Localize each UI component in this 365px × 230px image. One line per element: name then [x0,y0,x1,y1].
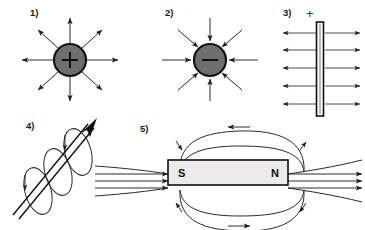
panel-3-label: 3) [283,7,291,18]
figure-canvas: 1) 2) [0,0,365,230]
panel-5-left-field-lines [95,166,168,196]
panel-4-loop-direction-arrows [25,135,65,190]
panel-5-lower-loop [176,190,306,230]
panel-3-plate-charge-sign: + [306,6,314,21]
panel-5-north-pole-label: N [271,167,279,179]
panel-5-right-field-lines [288,160,362,202]
panel-1-positive-charge: 1) [22,7,118,101]
panel-3-field-lines-right [325,33,360,104]
panel-3-field-lines-left [283,33,316,104]
panel-4-label: 4) [26,120,34,131]
panel-5-label: 5) [140,123,148,134]
panel-2-label: 2) [165,7,173,18]
panel-5-magnet-body [168,160,288,185]
panel-5-south-pole-label: S [178,167,185,179]
panel-3-charged-plate: 3) + [283,6,360,116]
panel-1-label: 1) [30,7,38,18]
panel-5-bar-magnet: 5) [95,123,362,230]
panel-4-wire [13,118,97,219]
physics-field-diagram-figure: 1) 2) [0,0,365,230]
panel-2-negative-charge: 2) [162,7,258,101]
panel-4-current-wire: 4) [13,118,97,219]
